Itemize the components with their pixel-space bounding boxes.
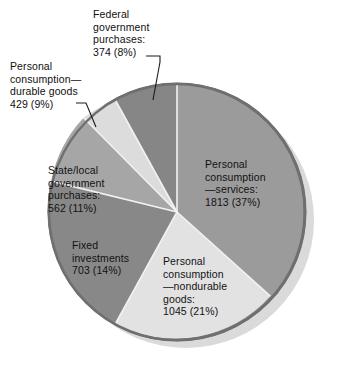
slice-label-personal-consumption-services: Personal consumption —services: 1813 (37… <box>205 158 297 208</box>
slice-label-personal-consumption-nondurable-goods: Personal consumption —nondurable goods: … <box>163 255 257 318</box>
slice-label-personal-consumption-durable-goods: Personal consumption— durable goods 429 … <box>10 60 106 110</box>
slice-label-fixed-investments: Fixed investments 703 (14%) <box>72 239 156 277</box>
slice-label-state-local-government-purchases: State/local government purchases: 562 (1… <box>48 164 136 214</box>
slice-label-federal-government-purchases: Federal government purchases: 374 (8%) <box>93 8 179 58</box>
pie-chart-figure: Federal government purchases: 374 (8%) P… <box>0 0 339 368</box>
